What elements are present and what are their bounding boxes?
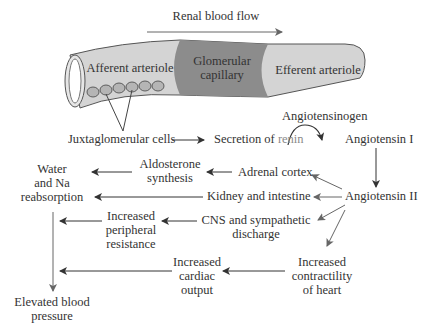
peripheral-label-2: peripheral [106, 224, 157, 238]
secretion-label: Secretion of renin [214, 133, 304, 147]
water-label-1: Water [37, 163, 67, 177]
adrenal-cortex-label: Adrenal cortex [238, 166, 313, 180]
bp-label-1: Elevated blood [14, 296, 89, 310]
cardiac-label-3: output [181, 284, 213, 298]
water-label-2: and Na [34, 177, 70, 191]
jg-cells-label: Juxtaglomerular cells [68, 133, 175, 147]
cns-label-1: CNS and sympathetic [201, 214, 310, 228]
contractility-label-3: of heart [303, 284, 342, 298]
angiotensin-2-label: Angiotensin II [345, 190, 418, 204]
glomerular-label-2: capillary [200, 69, 244, 83]
contractility-label-1: Increased [298, 256, 346, 270]
flow-label: Renal blood flow [173, 10, 260, 24]
afferent-arteriole-label: Afferent arteriole [87, 62, 174, 76]
glomerular-label-1: Glomerular [193, 55, 251, 69]
cardiac-label-2: cardiac [179, 270, 215, 284]
water-label-3: reabsorption [21, 191, 83, 205]
peripheral-label-3: resistance [106, 238, 155, 252]
cardiac-label-1: Increased [173, 256, 221, 270]
aldosterone-label-1: Aldosterone [139, 158, 200, 172]
angiotensinogen-label: Angiotensinogen [282, 110, 367, 124]
contractility-label-2: contractility [292, 270, 352, 284]
angiotensin-1-label: Angiotensin I [345, 133, 413, 147]
cns-label-2: discharge [232, 228, 280, 242]
efferent-arteriole-label: Efferent arteriole [275, 64, 360, 78]
renin-label: renin [278, 132, 304, 146]
bp-label-2: pressure [31, 310, 73, 324]
aldosterone-label-2: synthesis [147, 172, 193, 186]
peripheral-label-1: Increased [107, 210, 155, 224]
kidney-intestine-label: Kidney and intestine [207, 190, 310, 204]
